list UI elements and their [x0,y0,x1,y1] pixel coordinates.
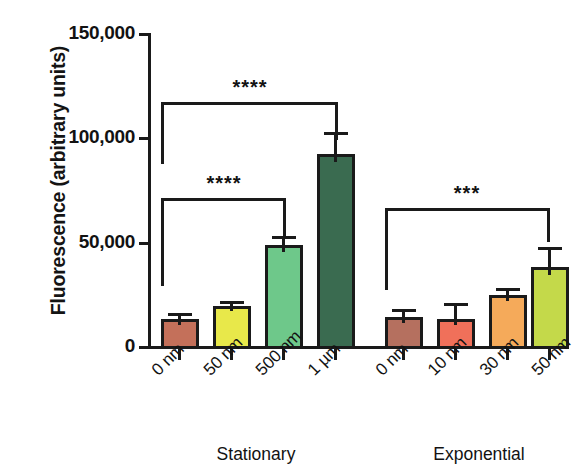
errorcap-exponential-0nm [392,309,416,312]
y-tick-label-150000: 150,000 [10,22,135,44]
significance-bracket-middle-left-arm [161,198,164,286]
significance-bracket-top-left-arm [161,102,164,164]
significance-bracket-middle-right-arm [283,198,286,236]
y-tick-label-50000: 50,000 [10,231,135,253]
significance-bracket-middle-bar [161,198,286,201]
significance-bracket-right-bar [385,208,550,211]
y-tick-mark-50000 [139,242,148,245]
errorbar-exponential-10nm [454,303,457,325]
group-label-stationary: Stationary [196,444,316,465]
y-axis-line [148,33,151,349]
group-label-exponential: Exponential [414,444,544,465]
significance-label-middle: **** [164,172,284,195]
y-tick-mark-150000 [139,33,148,36]
y-tick-mark-0 [139,346,148,349]
errorbar-exponential-50nm [548,247,551,275]
errorcap-exponential-50nm [538,247,562,250]
significance-label-right: *** [412,182,522,205]
errorcap-stationary-0nm [168,313,192,316]
errorcap-stationary-500nm [272,236,296,239]
significance-label-top: **** [190,76,310,99]
y-axis-title: Fluorescence (arbitrary units) [47,6,70,356]
errorcap-stationary-50nm [220,301,244,304]
significance-bracket-top-right-arm [335,102,338,140]
errorcap-exponential-30nm [496,288,520,291]
y-tick-label-0: 0 [10,335,135,357]
y-tick-label-100000: 100,000 [10,126,135,148]
y-tick-mark-100000 [139,137,148,140]
significance-bracket-right-left-arm [385,208,388,290]
bar-stationary-1um [317,154,355,349]
significance-bracket-right-right-arm [547,208,550,242]
errorcap-exponential-10nm [444,303,468,306]
significance-bracket-top-bar [161,102,338,105]
